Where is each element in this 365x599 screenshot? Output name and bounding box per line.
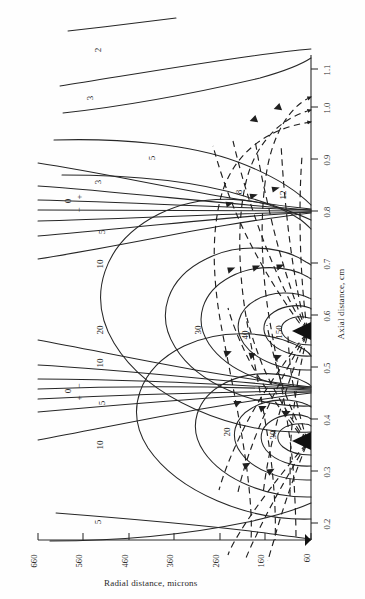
origin-arrow — [305, 534, 311, 546]
axial-tick-4: 0.6 — [322, 311, 332, 322]
contour-label: 20 — [222, 428, 232, 437]
axial-tick-8: 1.0 — [322, 103, 332, 114]
contour-label: 5 — [97, 401, 107, 406]
contour-label: − — [74, 207, 84, 212]
axial-tick-7: 0.9 — [322, 155, 332, 166]
contour-label: 12 — [278, 191, 288, 200]
contour-label: 30 — [268, 431, 278, 440]
radial-tick-0: 60 — [302, 554, 312, 563]
equipotential-contours — [38, 18, 311, 541]
contour-label: 5 — [93, 520, 103, 525]
axial-tick-2: 0.4 — [322, 415, 332, 426]
axial-tick-6: 0.8 — [322, 207, 332, 218]
radial-axis-title: Radial distance, microns — [104, 578, 198, 588]
axial-tick-1: 0.3 — [322, 467, 332, 478]
axial-axis — [311, 55, 318, 540]
contour-label: + — [74, 395, 84, 400]
radial-tick-5: 560 — [74, 554, 84, 567]
source-marker-lower — [292, 432, 311, 450]
figure-root: 0.2 0.3 0.4 0.5 0.6 0.7 0.8 0.9 1.0 1.1 … — [0, 0, 365, 599]
contour-label: 3 — [85, 96, 95, 101]
contour-label: 0 — [63, 389, 73, 394]
contour-label: 8 — [234, 190, 244, 195]
contour-label: 20 — [95, 326, 105, 335]
contour-label: 5 — [97, 230, 107, 235]
contour-label: + — [74, 194, 84, 199]
axial-tick-3: 0.5 — [322, 363, 332, 374]
contour-label: 10 — [95, 441, 105, 450]
source-marker-upper — [292, 322, 311, 340]
contour-label: 10 — [95, 260, 105, 269]
radial-tick-6: 660 — [29, 554, 39, 567]
contour-label: 2 — [93, 48, 103, 53]
axial-tick-9: 1.1 — [322, 65, 332, 76]
contour-label: 3 — [93, 180, 103, 185]
axial-tick-0: 0.2 — [322, 519, 332, 530]
radial-tick-4: 460 — [120, 554, 130, 567]
contour-label: 30 — [193, 326, 203, 335]
radial-tick-2: 260 — [211, 554, 221, 567]
contour-label: 5 — [147, 156, 157, 161]
axial-tick-5: 0.7 — [322, 259, 332, 270]
contour-label: 40 — [240, 331, 250, 340]
contour-plot-svg — [0, 0, 365, 599]
contour-label: − — [74, 383, 84, 388]
contour-label: 0 — [63, 199, 73, 204]
plot-area — [38, 18, 318, 561]
axial-ticks — [311, 69, 318, 523]
radial-tick-3: 360 — [165, 554, 175, 567]
radial-tick-1: 160 — [256, 554, 266, 567]
axial-axis-title: Axial distance, cm — [336, 269, 346, 340]
contour-label: 150 — [274, 325, 284, 339]
contour-label: 10 — [95, 359, 105, 368]
